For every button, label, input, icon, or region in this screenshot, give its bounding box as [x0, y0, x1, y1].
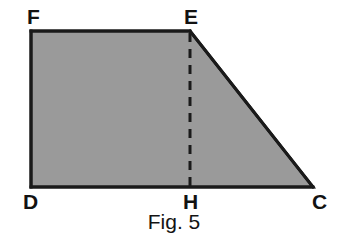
vertex-label-f: F: [27, 6, 40, 27]
vertex-label-d: D: [23, 191, 38, 212]
trapezoid-shape: [31, 31, 313, 187]
vertex-label-h: H: [183, 191, 198, 212]
vertex-label-e: E: [184, 6, 198, 27]
vertex-label-c: C: [312, 191, 327, 212]
figure-caption: Fig. 5: [0, 211, 348, 232]
figure-container: F E D H C Fig. 5: [0, 0, 348, 248]
